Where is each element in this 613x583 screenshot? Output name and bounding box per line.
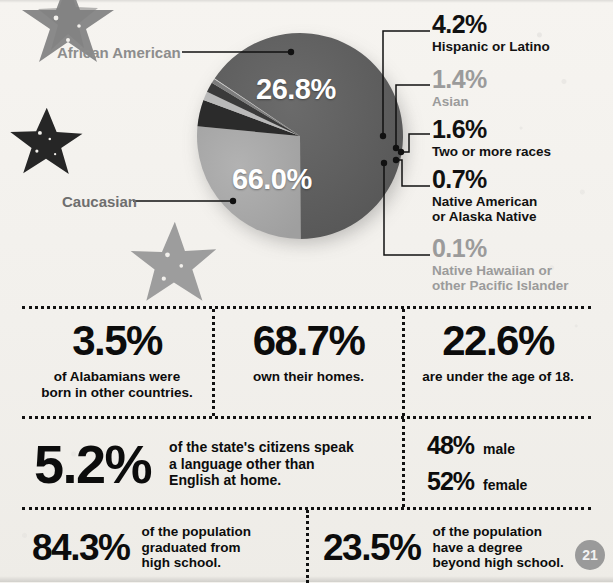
stats-row-1: 3.5% of Alabamians were born in other co… [22,306,591,416]
stat-home-owners: 68.7% own their homes. [212,309,402,416]
stat-under-18-text: are under the age of 18. [405,369,591,385]
statistics-panel: 3.5% of Alabamians were born in other co… [22,306,591,583]
legend-percent-hispanic: 4.2% [432,12,550,37]
page-number-badge: 21 [575,540,605,570]
legend-label-native-american-line1: Native American [432,194,537,209]
stat-hs-graduate-line2: graduated from [141,540,250,556]
stat-gender-male-value: 48% [427,433,474,458]
legend-item-native-hawaiian: 0.1% Native Hawaiian or other Pacific Is… [432,236,569,293]
stat-language-other-than-english: 5.2% of the state's citizens speak a lan… [22,419,402,507]
stat-under-18: 22.6% are under the age of 18. [402,309,591,416]
legend-label-native-american: Native American or Alaska Native [432,194,537,224]
stat-degree-line1: of the population [432,524,563,540]
legend-percent-two-or-more-races: 1.6% [432,117,551,142]
stat-degree-text: of the population have a degree beyond h… [432,524,563,572]
stat-language-line2: a language other than [169,456,354,473]
pie-label-african-american: African American [57,44,181,61]
stat-gender-female: 52% female [427,469,591,494]
stat-high-school-graduates: 84.3% of the population graduated from h… [22,510,306,583]
pie-value-caucasian: 66.0% [232,163,312,196]
legend-label-hispanic: Hispanic or Latino [432,39,550,54]
stat-foreign-born: 3.5% of Alabamians were born in other co… [22,309,212,416]
legend-item-native-american: 0.7% Native American or Alaska Native [432,167,537,224]
stat-under-18-value: 22.6% [405,320,591,362]
stat-language-line1: of the state's citizens speak [169,439,354,456]
stat-gender-male: 48% male [427,433,591,458]
stat-degree-beyond-high-school: 23.5% of the population have a degree be… [306,510,591,583]
stat-language-text: of the state's citizens speak a language… [169,439,354,489]
legend-label-asian: Asian [432,94,487,109]
legend-label-native-american-line2: or Alaska Native [432,209,537,224]
stat-hs-graduate-text: of the population graduated from high sc… [141,524,250,572]
stat-foreign-born-text: of Alabamians were born in other countri… [22,369,212,401]
stats-row-2: 5.2% of the state's citizens speak a lan… [22,416,591,507]
stat-gender-split: 48% male 52% female [402,419,591,507]
pie-value-african-american: 26.8% [256,73,336,106]
stat-degree-line3: beyond high school. [432,555,563,571]
stat-gender-female-value: 52% [427,469,474,494]
stat-hs-graduate-value: 84.3% [32,529,129,566]
legend-item-asian: 1.4% Asian [432,67,487,109]
legend-item-two-or-more-races: 1.6% Two or more races [432,117,551,159]
legend-label-native-hawaiian: Native Hawaiian or other Pacific Islande… [432,263,569,293]
population-race-pie-chart: African American Caucasian 26.8% 66.0% 4… [0,0,613,300]
legend-label-native-hawaiian-line2: other Pacific Islander [432,278,569,293]
stat-foreign-born-line1: of Alabamians were [22,369,212,385]
stat-home-owners-text: own their homes. [215,369,402,385]
legend-label-two-or-more-races: Two or more races [432,144,551,159]
stats-row-3: 84.3% of the population graduated from h… [22,507,591,583]
pie-label-caucasian: Caucasian [62,193,137,210]
legend-percent-asian: 1.4% [432,67,487,92]
stat-foreign-born-value: 3.5% [22,320,212,362]
legend-percent-native-american: 0.7% [432,167,537,192]
stat-degree-value: 23.5% [323,529,420,566]
stat-language-value: 5.2% [34,437,151,491]
stat-hs-graduate-line3: high school. [141,555,250,571]
stat-hs-graduate-line1: of the population [141,524,250,540]
legend-percent-native-hawaiian: 0.1% [432,236,569,261]
legend-item-hispanic: 4.2% Hispanic or Latino [432,12,550,54]
stat-home-owners-value: 68.7% [215,320,402,362]
stat-degree-line2: have a degree [432,540,563,556]
stat-gender-female-label: female [483,477,527,494]
legend-label-native-hawaiian-line1: Native Hawaiian or [432,263,569,278]
stat-foreign-born-line2: born in other countries. [22,385,212,401]
stat-language-line3: English at home. [169,472,354,489]
stat-gender-male-label: male [483,441,515,458]
